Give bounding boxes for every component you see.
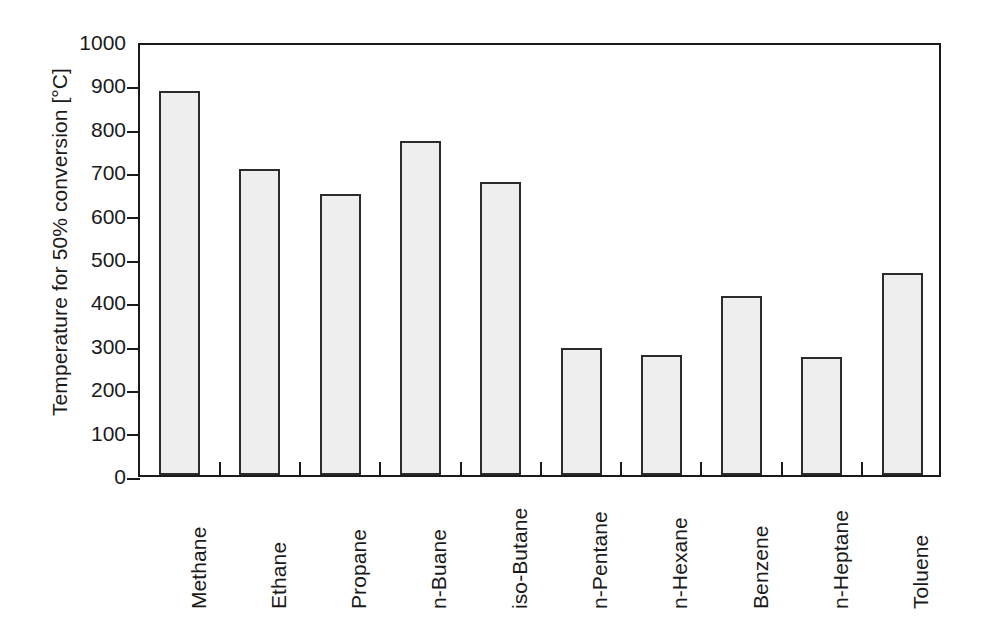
- bar: [721, 296, 762, 475]
- bar: [239, 169, 280, 475]
- x-axis-category-label: n-Pentane: [588, 511, 612, 609]
- x-axis-category-label: Propane: [347, 529, 371, 609]
- x-axis-tick: [620, 462, 622, 475]
- y-axis-tick-label: 100: [91, 422, 126, 446]
- x-axis-tick: [781, 462, 783, 475]
- x-axis-tick: [379, 462, 381, 475]
- x-axis-tick: [219, 462, 221, 475]
- y-axis-tick: [127, 87, 140, 89]
- bar-chart-figure: Temperature for 50% conversion [°C] 0100…: [0, 0, 981, 624]
- x-axis-tick: [700, 462, 702, 475]
- y-axis-tick: [127, 304, 140, 306]
- bar: [400, 141, 441, 475]
- y-axis-tick: [127, 434, 140, 436]
- y-axis-tick: [127, 478, 140, 480]
- bar: [561, 348, 602, 475]
- x-axis-category-label: n-Hexane: [668, 517, 692, 609]
- bar: [882, 273, 923, 475]
- bar: [159, 91, 200, 475]
- x-axis-tick: [299, 462, 301, 475]
- y-axis-tick-label: 800: [91, 118, 126, 142]
- x-axis-category-label: iso-Butane: [508, 508, 532, 609]
- plot-area: [138, 43, 941, 477]
- y-axis-tick-label: 400: [91, 291, 126, 315]
- x-axis-tick: [460, 462, 462, 475]
- x-axis-category-label: Methane: [187, 527, 211, 609]
- x-axis-tick: [861, 462, 863, 475]
- x-axis-category-label: n-Heptane: [829, 510, 853, 609]
- y-axis-tick: [127, 261, 140, 263]
- y-axis-tick-label: 200: [91, 378, 126, 402]
- bar: [320, 194, 361, 475]
- x-axis-category-label: Ethane: [267, 542, 291, 609]
- bar: [480, 182, 521, 475]
- y-axis-tick-label: 500: [91, 248, 126, 272]
- y-axis-tick: [127, 217, 140, 219]
- y-axis-title: Temperature for 50% conversion [°C]: [48, 22, 72, 462]
- y-axis-tick: [127, 391, 140, 393]
- y-axis-tick-label: 700: [91, 161, 126, 185]
- y-axis-tick: [127, 348, 140, 350]
- x-axis-category-label: n-Buane: [427, 529, 451, 609]
- y-axis-tick-label: 300: [91, 335, 126, 359]
- y-axis-tick-label: 600: [91, 205, 126, 229]
- y-axis-tick: [127, 131, 140, 133]
- bar: [801, 357, 842, 475]
- x-axis-tick: [540, 462, 542, 475]
- y-axis-tick-label: 0: [114, 465, 126, 489]
- y-axis-tick-label: 900: [91, 74, 126, 98]
- x-axis-category-label: Benzene: [749, 525, 773, 609]
- x-axis-category-label: Toluene: [909, 535, 933, 609]
- y-axis-tick: [127, 174, 140, 176]
- y-axis-tick-label: 1000: [79, 31, 126, 55]
- bar: [641, 355, 682, 475]
